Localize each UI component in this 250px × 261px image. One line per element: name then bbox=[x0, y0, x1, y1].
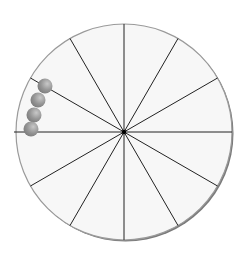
ball bbox=[31, 93, 46, 108]
ball bbox=[38, 79, 53, 94]
wheel-svg bbox=[0, 0, 250, 261]
center-hub bbox=[122, 130, 126, 134]
divided-wheel-diagram bbox=[0, 0, 250, 261]
ball bbox=[24, 122, 39, 137]
ball bbox=[27, 108, 42, 123]
